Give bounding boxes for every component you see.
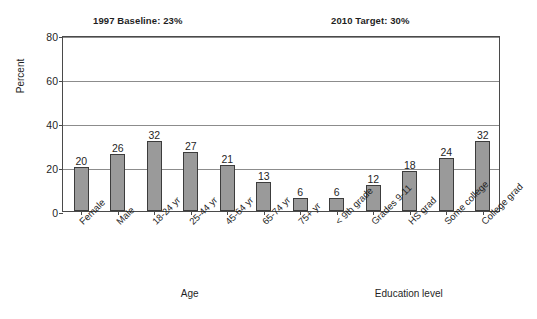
gridline-80: [63, 37, 499, 38]
bar-value-label: 12: [367, 173, 379, 185]
baseline-annotation: 1997 Baseline: 23%: [93, 15, 182, 26]
y-axis-title: Percent: [15, 26, 26, 126]
y-tick-label-20: 20: [46, 163, 58, 175]
y-tick-mark-80: [59, 37, 63, 38]
gridline-20: [63, 169, 499, 170]
group-axis-label: Education level: [375, 288, 443, 299]
bar: 26: [110, 154, 125, 211]
gridline-40: [63, 125, 499, 126]
bar-value-label: 26: [112, 142, 124, 154]
bar-value-label: 18: [404, 159, 416, 171]
bar-chart-figure: 1997 Baseline: 23% 2010 Target: 30% Perc…: [0, 0, 537, 319]
bar-value-label: 6: [297, 186, 303, 198]
bar: 13: [256, 182, 271, 211]
y-tick-label-0: 0: [52, 207, 58, 219]
bar: 32: [475, 141, 490, 211]
bar: 32: [147, 141, 162, 211]
bar-value-label: 27: [185, 140, 197, 152]
bar: 27: [183, 152, 198, 211]
bar-value-label: 32: [148, 129, 160, 141]
y-tick-label-60: 60: [46, 75, 58, 87]
bar-value-label: 21: [221, 153, 233, 165]
y-tick-label-40: 40: [46, 119, 58, 131]
y-tick-mark-40: [59, 125, 63, 126]
bar-value-label: 32: [477, 129, 489, 141]
group-axis-label: Age: [181, 288, 199, 299]
y-tick-label-80: 80: [46, 31, 58, 43]
plot-area: 0204060802026322721136612182432: [62, 36, 500, 212]
bar: 20: [74, 167, 89, 211]
bar-value-label: 13: [258, 170, 270, 182]
bar: 24: [439, 158, 454, 211]
gridline-60: [63, 81, 499, 82]
bar-value-label: 6: [334, 186, 340, 198]
y-tick-mark-60: [59, 81, 63, 82]
bar-value-label: 20: [75, 155, 87, 167]
bar-value-label: 24: [440, 146, 452, 158]
y-tick-mark-20: [59, 169, 63, 170]
bar: 21: [220, 165, 235, 211]
y-tick-mark-0: [59, 213, 63, 214]
target-annotation: 2010 Target: 30%: [331, 15, 410, 26]
